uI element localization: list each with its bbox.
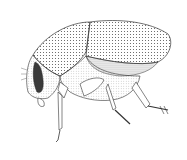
front-leg-tarsus bbox=[56, 130, 60, 142]
mouthpart bbox=[38, 98, 44, 107]
hind-leg-tibia bbox=[132, 82, 150, 108]
middle-leg-tarsus bbox=[115, 110, 130, 124]
elytra bbox=[86, 21, 171, 64]
beetle-illustration bbox=[0, 0, 187, 160]
front-leg-tibia bbox=[58, 92, 62, 130]
antenna-bristles bbox=[21, 68, 27, 80]
beetle-icon bbox=[0, 0, 187, 160]
